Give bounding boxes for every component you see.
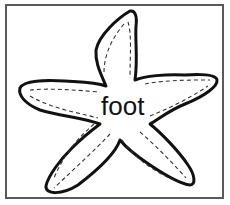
starfish-label: foot <box>101 91 144 122</box>
